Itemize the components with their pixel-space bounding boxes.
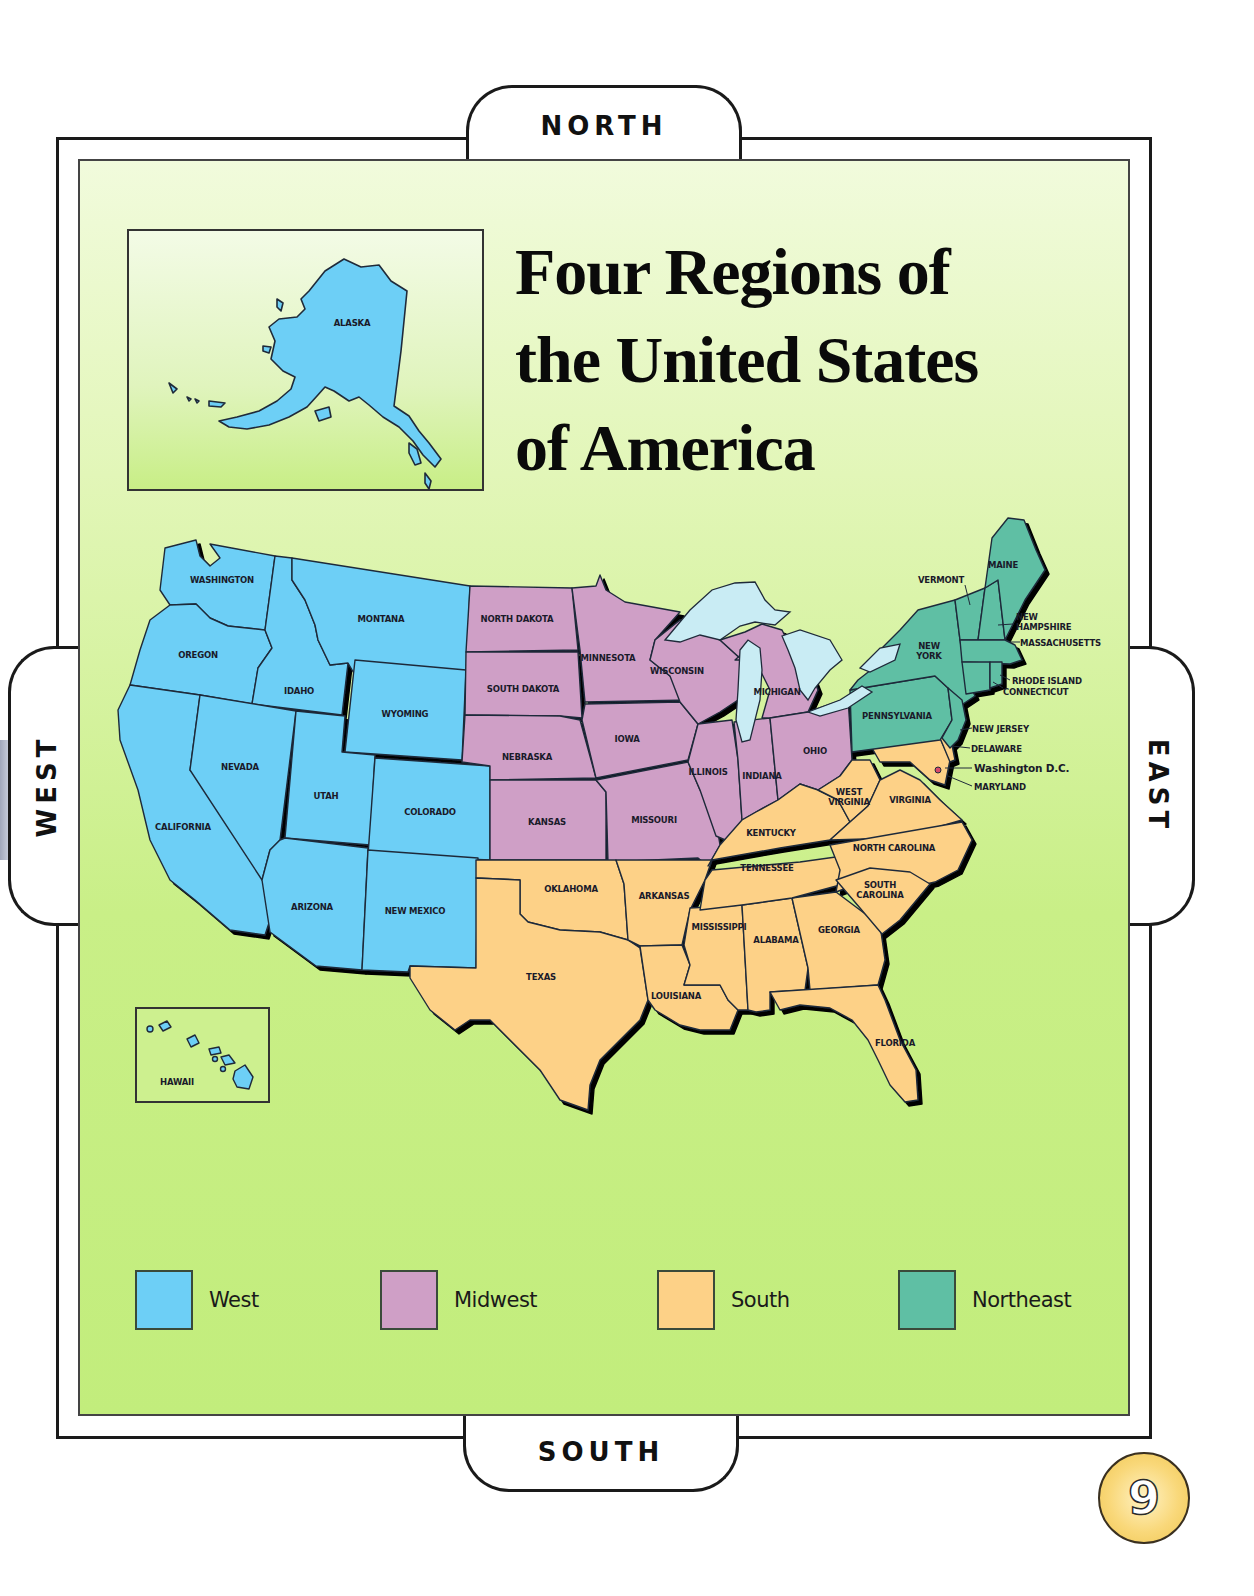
legend-item-midwest: Midwest xyxy=(380,1270,537,1330)
state-label-idaho: IDAHO xyxy=(284,686,314,696)
legend-item-northeast: Northeast xyxy=(898,1270,1071,1330)
page-number-badge: 9 xyxy=(1098,1452,1190,1544)
state-label-new-jersey: NEW JERSEY xyxy=(972,724,1029,734)
state-label-wisconsin: WISCONSIN xyxy=(650,666,704,676)
state-label-west-virginia: WESTVIRGINIA xyxy=(828,787,870,807)
state-label-north-dakota: NORTH DAKOTA xyxy=(481,614,554,624)
state-massachusetts xyxy=(960,640,1022,664)
legend-label-south: South xyxy=(731,1288,790,1312)
legend-swatch-northeast xyxy=(898,1270,956,1330)
legend-label-northeast: Northeast xyxy=(972,1288,1071,1312)
state-label-new-york: NEWYORK xyxy=(916,641,941,661)
state-label-california: CALIFORNIA xyxy=(155,822,211,832)
state-label-washington: WASHINGTON xyxy=(190,575,254,585)
state-label-minnesota: MINNESOTA xyxy=(581,653,636,663)
state-label-delaware: DELAWARE xyxy=(971,744,1022,754)
state-label-kansas: KANSAS xyxy=(528,817,566,827)
state-label-north-carolina: NORTH CAROLINA xyxy=(853,843,935,853)
state-label-illinois: ILLINOIS xyxy=(688,767,727,777)
state-label-wyoming: WYOMING xyxy=(382,709,429,719)
legend-swatch-south xyxy=(657,1270,715,1330)
state-label-rhode-island: RHODE ISLAND xyxy=(1012,676,1082,686)
state-label-vermont: VERMONT xyxy=(918,575,964,585)
state-label-nebraska: NEBRASKA xyxy=(502,752,552,762)
legend-label-midwest: Midwest xyxy=(454,1288,537,1312)
state-label-nevada: NEVADA xyxy=(221,762,259,772)
state-label-texas: TEXAS xyxy=(526,972,556,982)
state-label-connecticut: CONNECTICUT xyxy=(1003,687,1068,697)
legend-item-west: West xyxy=(135,1270,259,1330)
state-label-maryland: MARYLAND xyxy=(974,782,1026,792)
state-label-arizona: ARIZONA xyxy=(291,902,333,912)
state-label-georgia: GEORGIA xyxy=(818,925,860,935)
state-label-missouri: MISSOURI xyxy=(631,815,677,825)
legend-swatch-midwest xyxy=(380,1270,438,1330)
state-label-montana: MONTANA xyxy=(358,614,405,624)
state-label-pennsylvania: PENNSYLVANIA xyxy=(862,711,932,721)
legend-swatch-west xyxy=(135,1270,193,1330)
state-label-massachusetts: MASSACHUSETTS xyxy=(1020,638,1101,648)
state-label-washington-dc: Washington D.C. xyxy=(974,763,1069,773)
legend-item-south: South xyxy=(657,1270,790,1330)
state-label-louisiana: LOUISIANA xyxy=(651,991,701,1001)
state-label-new-hampshire: NEWHAMPSHIRE xyxy=(1016,612,1071,632)
state-label-virginia: VIRGINIA xyxy=(889,795,931,805)
state-label-south-dakota: SOUTH DAKOTA xyxy=(487,684,560,694)
state-label-utah: UTAH xyxy=(314,791,339,801)
legend-label-west: West xyxy=(209,1288,259,1312)
state-label-florida: FLORIDA xyxy=(875,1038,915,1048)
contiguous-us-map xyxy=(0,0,1254,1596)
state-label-oregon: OREGON xyxy=(178,650,218,660)
state-label-alabama: ALABAMA xyxy=(753,935,798,945)
state-label-maine: MAINE xyxy=(988,560,1018,570)
state-label-oklahoma: OKLAHOMA xyxy=(544,884,598,894)
state-label-kentucky: KENTUCKY xyxy=(746,828,796,838)
state-label-iowa: IOWA xyxy=(614,734,639,744)
state-label-tennessee: TENNESSEE xyxy=(740,863,793,873)
state-label-colorado: COLORADO xyxy=(404,807,456,817)
state-label-ohio: OHIO xyxy=(803,746,827,756)
dc-star-icon xyxy=(935,767,941,773)
state-label-indiana: INDIANA xyxy=(742,771,781,781)
state-label-south-carolina: SOUTHCAROLINA xyxy=(856,880,903,900)
state-label-arkansas: ARKANSAS xyxy=(639,891,690,901)
state-label-michigan: MICHIGAN xyxy=(753,687,800,697)
state-label-new-mexico: NEW MEXICO xyxy=(385,906,446,916)
state-label-mississippi: MISSISSIPPI xyxy=(691,922,746,932)
state-connecticut xyxy=(962,662,990,694)
